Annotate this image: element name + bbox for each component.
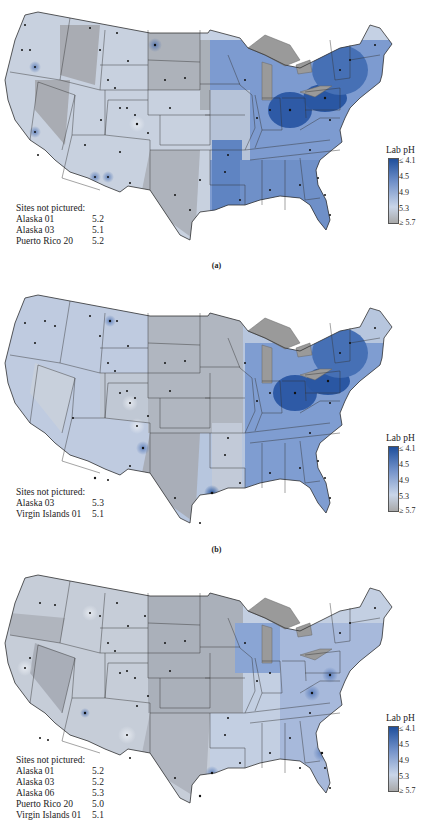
legend-title: Lab pH xyxy=(386,145,415,155)
legend-tick: 4.9 xyxy=(399,757,409,765)
legend-colorbar xyxy=(388,158,399,224)
site-row: Alaska 035.1 xyxy=(16,225,104,236)
legend-title: Lab pH xyxy=(386,433,415,443)
site-row: Puerto Rico 205.0 xyxy=(16,799,104,810)
panel-b: Sites not pictured: Alaska 035.3 Virgin … xyxy=(0,283,433,555)
sites-title: Sites not pictured: xyxy=(16,203,104,214)
legend-tick: 5.3 xyxy=(399,205,409,213)
site-row: Alaska 035.3 xyxy=(16,498,104,509)
legend-tick: ≥ 5.7 xyxy=(399,787,415,795)
sites-not-pictured-b: Sites not pictured: Alaska 035.3 Virgin … xyxy=(16,487,104,520)
site-row: Alaska 015.2 xyxy=(16,214,104,225)
sites-title: Sites not pictured: xyxy=(16,487,104,498)
site-row: Virgin Islands 015.1 xyxy=(16,810,104,821)
legend-tick: 4.5 xyxy=(399,173,409,181)
site-row: Virgin Islands 015.1 xyxy=(16,509,104,520)
legend-tick: ≥ 5.7 xyxy=(399,507,415,515)
panel-a: Sites not pictured: Alaska 015.2 Alaska … xyxy=(0,0,433,272)
legend-tick: 4.9 xyxy=(399,189,409,197)
legend-tick: ≤ 4.1 xyxy=(399,725,415,733)
legend-tick: 4.9 xyxy=(399,477,409,485)
panel-c: Sites not pictured: Alaska 015.2 Alaska … xyxy=(0,563,433,821)
legend-title: Lab pH xyxy=(386,713,415,723)
legend-tick: ≥ 5.7 xyxy=(399,219,415,227)
legend-tick: 4.5 xyxy=(399,741,409,749)
sites-not-pictured-c: Sites not pictured: Alaska 015.2 Alaska … xyxy=(16,755,104,821)
sites-not-pictured-a: Sites not pictured: Alaska 015.2 Alaska … xyxy=(16,203,104,247)
legend-tick: ≤ 4.1 xyxy=(399,157,415,165)
caption-a: (a) xyxy=(0,261,433,270)
site-row: Alaska 065.3 xyxy=(16,788,104,799)
sites-title: Sites not pictured: xyxy=(16,755,104,766)
legend-colorbar xyxy=(388,446,399,512)
legend-tick: 4.5 xyxy=(399,461,409,469)
legend-tick: ≤ 4.1 xyxy=(399,445,415,453)
legend-colorbar xyxy=(388,726,399,792)
legend-tick: 5.3 xyxy=(399,493,409,501)
site-row: Alaska 035.2 xyxy=(16,777,104,788)
legend-tick: 5.3 xyxy=(399,773,409,781)
site-row: Alaska 015.2 xyxy=(16,766,104,777)
site-row: Puerto Rico 205.2 xyxy=(16,236,104,247)
caption-b: (b) xyxy=(0,545,433,554)
